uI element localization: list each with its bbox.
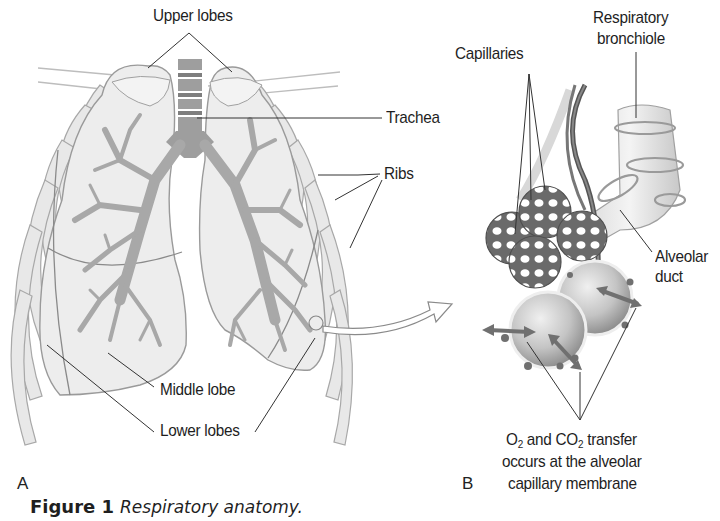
label-respiratory-bronchiole-line2: bronchiole xyxy=(597,29,665,49)
panel-label-a: A xyxy=(17,474,28,494)
label-upper-lobes: Upper lobes xyxy=(153,6,233,26)
label-alveolar-duct-line2: duct xyxy=(655,267,683,287)
o2-text: O xyxy=(506,430,518,449)
figure-number: Figure 1 xyxy=(30,496,114,517)
label-gas-exchange-line2: occurs at the alveolar xyxy=(502,452,641,472)
label-middle-lobe: Middle lobe xyxy=(160,380,235,400)
label-gas-exchange-line3: capillary membrane xyxy=(508,474,637,494)
label-trachea: Trachea xyxy=(386,108,440,128)
label-alveolar-duct-line1: Alveolar xyxy=(655,247,708,267)
label-ribs: Ribs xyxy=(384,164,414,184)
panel-label-b: B xyxy=(462,474,473,494)
label-lower-lobes: Lower lobes xyxy=(160,421,240,441)
co2-text: and CO xyxy=(523,430,578,449)
label-respiratory-bronchiole-line1: Respiratory xyxy=(593,8,668,28)
transfer-text: transfer xyxy=(583,430,637,449)
label-capillaries: Capillaries xyxy=(455,44,523,64)
alveoli-diagram xyxy=(482,85,685,370)
figure-caption: Figure 1Respiratory anatomy. xyxy=(30,496,303,518)
figure-title: Respiratory anatomy. xyxy=(120,497,303,517)
label-gas-exchange-line1: O2 and CO2 transfer xyxy=(506,430,637,454)
